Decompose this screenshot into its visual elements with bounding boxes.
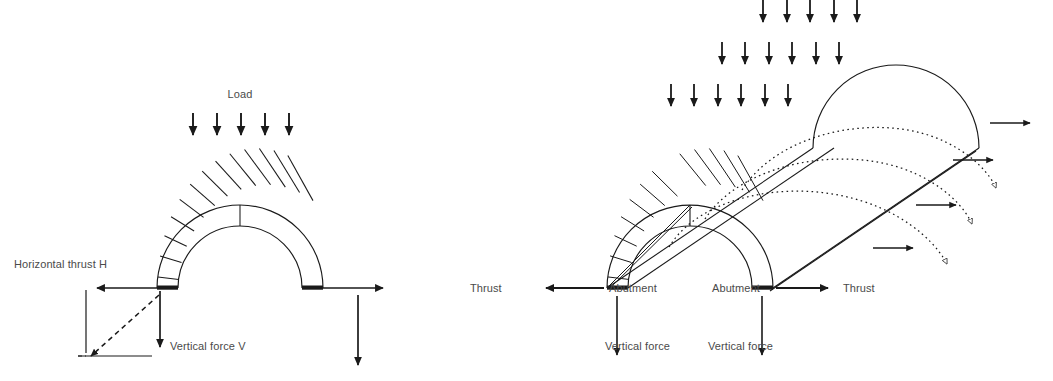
voussoir-joint: [614, 236, 636, 247]
force-flow-arc: [742, 127, 996, 190]
voussoir-joint: [630, 199, 654, 217]
voussoir-joint: [652, 171, 677, 196]
vault-load-row-2: [722, 42, 839, 64]
right-vault-group: Thrust Thrust Abutment Abutment Vertical…: [470, 0, 1030, 355]
voussoir-joint: [180, 199, 204, 217]
thrust-label-left: Thrust: [470, 282, 502, 294]
vault-back-arch-extrados: [813, 65, 979, 148]
voussoir-joint: [160, 256, 181, 263]
voussoir-joint: [610, 256, 631, 263]
abutment-label-left: Abutment: [609, 282, 657, 294]
voussoir-joint: [640, 184, 665, 205]
figure-canvas: Load Horizontal thrust H Vertical force …: [0, 0, 1053, 381]
voussoir-joint: [245, 150, 271, 185]
voussoir-joint: [738, 156, 763, 201]
vertical-force-label-left: Vertical force: [605, 340, 670, 352]
vault-edge-left-outer: [607, 148, 813, 288]
vault-edge-right-inner: [770, 151, 976, 291]
voussoir-joint: [216, 161, 242, 189]
left-arch-group: Load Horizontal thrust H Vertical force …: [14, 88, 383, 365]
horizontal-thrust-label: Horizontal thrust H: [14, 258, 107, 270]
voussoir-joint-group: [158, 148, 313, 279]
force-parallelogram: [78, 288, 160, 356]
abutment-label-right: Abutment: [712, 282, 760, 294]
voussoir-joint: [164, 236, 186, 247]
arch-intrados: [628, 226, 752, 288]
vault-load-row-3: [763, 0, 857, 22]
load-arrow-group: [193, 113, 289, 135]
resultant-force-arrow: [91, 295, 159, 356]
arch-intrados: [178, 226, 302, 288]
load-label: Load: [228, 88, 253, 100]
voussoir-joint: [288, 156, 313, 201]
vault-load-row-1: [671, 84, 788, 106]
voussoir-joint: [695, 150, 721, 185]
voussoir-joint: [274, 151, 300, 193]
voussoir-joint: [190, 184, 215, 205]
vertical-force-label-right: Vertical force: [708, 340, 773, 352]
vault-intrados-edge-left2: [610, 207, 692, 288]
voussoir-joint: [202, 171, 227, 196]
voussoir-joint: [158, 277, 179, 279]
vault-intrados-edge-left: [607, 205, 690, 288]
voussoir-joint: [709, 148, 735, 187]
lateral-thrust-arrow-group: [873, 123, 1030, 248]
voussoir-joint: [724, 151, 750, 193]
voussoir-joint: [259, 148, 285, 187]
vertical-force-label: Vertical force V: [170, 340, 246, 352]
force-flow-arc: [669, 191, 947, 264]
thrust-label-right: Thrust: [843, 282, 875, 294]
voussoir-joint: [680, 154, 706, 186]
abutment-base-right: [302, 286, 323, 290]
abutment-base-left: [157, 286, 178, 290]
force-flow-arc-group: [669, 127, 996, 264]
arch-thrust-diagram: Load Horizontal thrust H Vertical force …: [0, 0, 1053, 381]
